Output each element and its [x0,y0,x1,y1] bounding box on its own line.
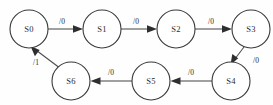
state-node-s3[interactable]: S3 [232,10,270,48]
fsm-canvas: /0 /0 /0 /0 /0 /0 [0,0,273,105]
edge-s0-s1-arrowhead [73,25,83,33]
state-node-s5[interactable]: S5 [132,62,170,100]
edge-s4-s5[interactable]: /0 [171,68,213,85]
edge-s1-s2-arrowhead [147,25,157,33]
edge-s0-s1-label: /0 [59,17,65,26]
state-node-s4-label: S4 [226,76,236,86]
edge-s6-s0-label: /1 [33,58,39,67]
edge-s5-s6[interactable]: /0 [91,68,133,85]
state-machine-diagram: /0 /0 /0 /0 /0 /0 [0,0,273,105]
edge-s5-s6-label: /0 [108,68,114,77]
edge-s1-s2[interactable]: /0 [121,17,157,33]
edge-s0-s1[interactable]: /0 [48,17,83,33]
state-node-s0-label: S0 [24,24,33,34]
state-node-s6-label: S6 [66,76,75,86]
edge-s6-s0-line [37,51,59,68]
edge-s4-s5-label: /0 [188,68,194,77]
state-node-s5-label: S5 [146,76,155,86]
edge-s3-s4-label: /0 [253,56,259,65]
edge-s1-s2-label: /0 [133,17,139,26]
state-node-s4[interactable]: S4 [212,62,250,100]
state-node-s2[interactable]: S2 [157,10,195,48]
state-node-s3-label: S3 [246,24,255,34]
edge-s2-s3[interactable]: /0 [195,17,232,33]
state-node-s1[interactable]: S1 [83,10,121,48]
edge-s2-s3-label: /0 [208,17,214,26]
edge-s2-s3-arrowhead [222,25,232,33]
state-node-s1-label: S1 [97,24,106,34]
edge-s6-s0[interactable]: /1 [31,46,59,67]
state-node-s2-label: S2 [171,24,180,34]
edge-s4-s5-arrowhead [171,77,181,85]
edge-s5-s6-arrowhead [91,77,101,85]
state-node-s0[interactable]: S0 [10,10,48,48]
state-node-s6[interactable]: S6 [52,62,90,100]
